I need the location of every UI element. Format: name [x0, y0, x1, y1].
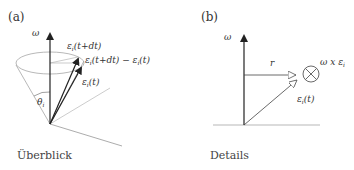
- eps-now-label: εi(t): [82, 77, 100, 88]
- eps-next-arrow: [50, 59, 78, 124]
- panel-a-caption: Überblick: [17, 148, 72, 162]
- svg-text:ω x εi: ω x εi: [320, 57, 345, 68]
- eps-diff-label: εi(t+dt) − εi(t): [85, 55, 150, 66]
- panel-a-label: (a): [8, 10, 25, 24]
- theta-arc: [34, 92, 50, 96]
- svg-text:εi(t): εi(t): [297, 94, 315, 105]
- eps-now-vector-b: [244, 80, 297, 125]
- theta-label: θi: [37, 97, 44, 108]
- eps-next-label: εi(t+dt): [67, 41, 102, 52]
- eps-now-arrow: [50, 68, 81, 124]
- diagram-canvas: (a) ω εi(t+dt) εi(t+dt) − εi(t) εi(t): [0, 0, 354, 170]
- into-page-icon: [303, 66, 319, 82]
- rim-radius-1: [50, 57, 78, 63]
- svg-text:θi: θi: [37, 97, 44, 108]
- svg-text:εi(t): εi(t): [82, 77, 100, 88]
- axis-ground-2: [50, 88, 110, 124]
- panel-b: (b) ω r ω x εi εi(t) Details: [201, 10, 345, 162]
- svg-text:εi(t+dt): εi(t+dt): [67, 41, 102, 52]
- panel-b-label: (b): [201, 10, 218, 24]
- panel-b-caption: Details: [210, 149, 249, 162]
- omega-label-b: ω: [224, 32, 232, 42]
- r-label: r: [270, 58, 275, 68]
- axis-ground-1: [50, 124, 122, 146]
- omega-label: ω: [32, 28, 40, 38]
- svg-text:εi(t+dt) − εi(t): εi(t+dt) − εi(t): [85, 55, 150, 66]
- panel-a: (a) ω εi(t+dt) εi(t+dt) − εi(t) εi(t): [8, 10, 150, 162]
- cross-product-label: ω x εi: [320, 57, 345, 68]
- eps-now-label-b: εi(t): [297, 94, 315, 105]
